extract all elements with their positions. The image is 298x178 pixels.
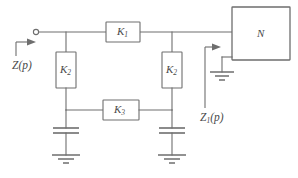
k3-label: K3 [114, 104, 125, 116]
z-arrow-head-icon [27, 38, 36, 45]
z1-arrow-head-icon [212, 43, 221, 50]
circuit-diagram-canvas: K1 K2 K2 K3 N Z(p) Z1(p) [0, 0, 298, 178]
n-label: N [257, 28, 264, 39]
k2-right-label: K2 [166, 64, 177, 76]
z-input-label: Z(p) [12, 60, 32, 72]
circuit-schematic-svg [0, 0, 298, 178]
z1-internal-label: Z1(p) [200, 112, 224, 124]
k1-label: K1 [117, 26, 128, 38]
k2-left-label: K2 [60, 64, 71, 76]
input-terminal-circle [33, 29, 38, 34]
